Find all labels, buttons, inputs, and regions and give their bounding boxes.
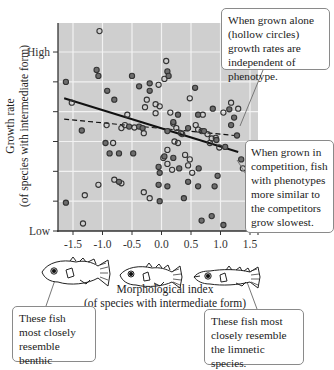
competition-point [221, 222, 226, 227]
y-axis-title-line2: (of species with intermediate form) [17, 31, 31, 221]
competition-point [196, 166, 201, 171]
competition-point [196, 184, 201, 189]
competition-point [223, 144, 228, 149]
competition-point [147, 88, 152, 93]
competition-point [177, 166, 182, 171]
callout-benthic-fish: These fish most closely resemble benthic… [12, 306, 96, 362]
competition-point [171, 120, 176, 125]
competition-point [171, 155, 176, 160]
competition-point [186, 126, 191, 131]
competition-point [165, 129, 170, 134]
x-tick-label: -1.5 [64, 238, 82, 250]
competition-point [147, 81, 152, 86]
x-tick-label: -0.5 [123, 238, 141, 250]
competition-point [229, 123, 234, 128]
callout-grown-alone: When grown alone (hollow circles) growth… [221, 8, 330, 70]
competition-point [212, 184, 217, 189]
competition-point [239, 157, 244, 162]
competition-point [131, 151, 136, 156]
competition-point [127, 124, 132, 129]
competition-point [193, 85, 198, 90]
competition-point [166, 73, 171, 78]
competition-point [94, 67, 99, 72]
y-axis-title-line1: Growth rate [3, 31, 17, 221]
x-tick-label: 1.0 [213, 238, 228, 250]
competition-point [140, 126, 145, 131]
competition-point [156, 164, 161, 169]
competition-point [116, 179, 121, 184]
competition-point [137, 84, 142, 89]
x-axis-title-line1: Morphological index [60, 282, 270, 296]
y-axis-title: Growth rate (of species with intermediat… [3, 31, 31, 221]
x-tick-label: 0.0 [154, 238, 169, 250]
x-tick-label: 1.5 [243, 238, 258, 250]
callout-grown-in-competition: When grown in competition, fish with phe… [245, 140, 334, 233]
competition-point [214, 137, 219, 142]
competition-point [175, 112, 180, 117]
competition-point [209, 214, 214, 219]
x-tick-label: 0.5 [184, 238, 199, 250]
competition-point [196, 112, 201, 117]
competition-point [103, 140, 108, 145]
competition-point [63, 200, 68, 205]
competition-point [201, 129, 206, 134]
competition-point [157, 199, 162, 204]
competition-point [79, 128, 84, 133]
competition-point [107, 151, 112, 156]
competition-point [63, 79, 68, 84]
competition-point [112, 97, 117, 102]
competition-point [215, 173, 220, 178]
y-tick-low: Low [29, 225, 51, 237]
x-tick-label: -1.0 [93, 238, 111, 250]
competition-point [162, 154, 167, 159]
competition-point [210, 106, 215, 111]
competition-point [199, 218, 204, 223]
competition-point [157, 170, 162, 175]
competition-point [116, 151, 121, 156]
competition-point [156, 182, 161, 187]
competition-point [129, 73, 134, 78]
competition-point [105, 88, 110, 93]
callout-limnetic-fish: These fish most closely resemble the lim… [204, 309, 304, 365]
competition-point [96, 73, 101, 78]
competition-point [165, 184, 170, 189]
competition-point [227, 107, 232, 112]
competition-point [186, 179, 191, 184]
competition-point [232, 115, 237, 120]
competition-point [234, 133, 239, 138]
competition-point [181, 196, 186, 201]
